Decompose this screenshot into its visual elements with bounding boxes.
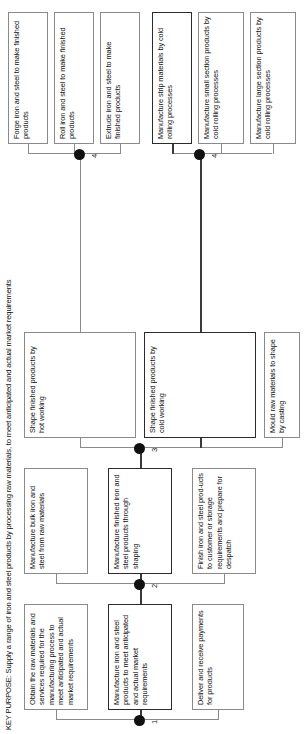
node-extrude-iron-steel[interactable]: Extrude iron and steel to make finished …: [100, 12, 140, 144]
connector-hot-to-level4: [80, 154, 81, 332]
node-finish-products-despatch[interactable]: Finish iron and steel prod-ucts to custo…: [192, 468, 256, 574]
connector-level3-c: [282, 438, 283, 448]
junction-dot-level4-hot: [74, 149, 85, 160]
node-deliver-receive-payments[interactable]: Deliver and receive payments for product…: [192, 604, 244, 710]
node-shape-by-hot-working[interactable]: Shape finished products by hot working: [24, 332, 136, 438]
junction-dot-level3: [134, 443, 145, 454]
node-manufacture-bulk-iron-steel[interactable]: Manufacture bulk iron and steel from raw…: [24, 468, 88, 574]
connector-level1-a: [56, 710, 57, 720]
node-mould-by-casting[interactable]: Mould raw materials to shape by casting: [264, 332, 300, 438]
connector-level2-c: [224, 574, 225, 584]
connector-level4-cold-a: [172, 144, 174, 154]
junction-dot-level1: [134, 715, 145, 726]
connector-level4-cold-spine: [172, 153, 272, 154]
diagram-title: KEY PURPOSE: Supply a range of iron and …: [4, 280, 13, 730]
junction-dot-level2: [134, 579, 145, 590]
node-obtain-raw-materials[interactable]: Obtain the raw materials and services re…: [24, 604, 88, 710]
node-manufacture-small-section[interactable]: Manufacture small section products by co…: [198, 12, 244, 144]
node-shape-by-cold-working[interactable]: Shape finished products by cold working: [144, 332, 256, 438]
connector-cold-to-level4: [200, 154, 202, 332]
node-manufacture-large-section[interactable]: Manufacture large section products by co…: [250, 12, 296, 144]
connector-level4-cold-b: [221, 144, 222, 154]
connector-level3-b: [200, 438, 202, 448]
node-manufacture-strip-materials[interactable]: Manufacture strip materials by cold roll…: [152, 12, 192, 144]
level-marker-1: 1: [150, 720, 159, 724]
connector-level3-a: [80, 438, 81, 448]
diagram-rotation-wrapper: KEY PURPOSE: Supply a range of iron and …: [0, 0, 304, 734]
node-forge-iron-steel[interactable]: Forge iron and steel to make finished pr…: [8, 12, 48, 144]
junction-dot-level4-cold: [194, 149, 205, 160]
connector-level1-c: [218, 710, 219, 720]
connector-level4-hot-c: [120, 144, 121, 154]
connector-level4-cold-c: [273, 144, 274, 154]
diagram-canvas: KEY PURPOSE: Supply a range of iron and …: [0, 0, 304, 734]
node-manufacture-finished-through-shaping[interactable]: Manufacture finished iron and steel prod…: [108, 468, 172, 574]
connector-level4-hot-a: [28, 144, 29, 154]
level-marker-2: 2: [150, 584, 159, 588]
connector-level3-spine: [80, 447, 282, 448]
level-marker-4-cold: 4: [210, 154, 219, 158]
connector-level2-a: [56, 574, 57, 584]
node-manufacture-iron-steel-products[interactable]: Manufacture iron and steel products to m…: [108, 604, 172, 710]
level-marker-3: 3: [150, 448, 159, 452]
level-marker-4-hot: 4: [90, 154, 99, 158]
node-roll-iron-steel[interactable]: Roll iron and steel to make finished pro…: [54, 12, 94, 144]
